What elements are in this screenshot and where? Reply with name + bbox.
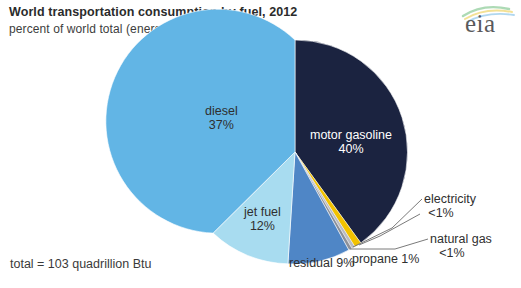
pie-label-motor-gasoline: motor gasoline 40% xyxy=(310,128,392,156)
pie-label-diesel: diesel 37% xyxy=(205,104,238,132)
pie-label-diesel-value: 37% xyxy=(205,118,238,132)
pie-label-jet-fuel-name: jet fuel xyxy=(244,205,281,219)
pie-label-residual-name: residual xyxy=(289,256,333,270)
pie-label-jet-fuel-value: 12% xyxy=(244,219,281,233)
chart-container: World transportation consumption by fuel… xyxy=(0,0,521,288)
pie-label-natural-gas: natural gas <1% xyxy=(430,232,492,260)
pie-label-propane: propane 1% xyxy=(352,252,419,266)
pie-label-natural-gas-name: natural gas xyxy=(430,232,492,246)
pie-label-propane-value: 1% xyxy=(401,252,419,266)
pie-label-diesel-name: diesel xyxy=(205,104,238,118)
pie-label-motor-gasoline-name: motor gasoline xyxy=(310,128,392,142)
pie-label-residual: residual 9% xyxy=(289,256,354,270)
pie-label-propane-name: propane xyxy=(352,252,398,266)
pie-label-motor-gasoline-value: 40% xyxy=(310,142,392,156)
chart-footnote: total = 103 quadrillion Btu xyxy=(10,257,151,271)
pie-label-electricity: electricity <1% xyxy=(424,192,476,220)
pie-label-electricity-name: electricity xyxy=(424,192,476,206)
pie-label-natural-gas-value: <1% xyxy=(430,246,492,260)
pie-label-electricity-value: <1% xyxy=(424,206,476,220)
pie-label-jet-fuel: jet fuel 12% xyxy=(244,205,281,233)
